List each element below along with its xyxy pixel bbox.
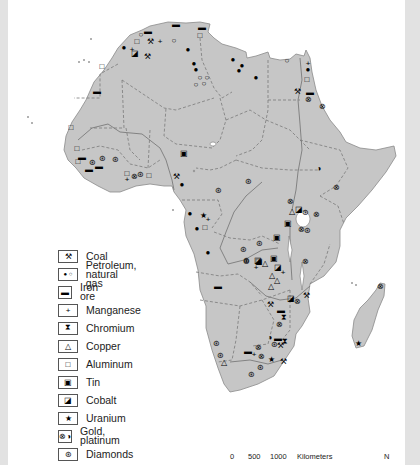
manganese-icon: + bbox=[281, 269, 286, 277]
tin-icon: ▣ bbox=[284, 220, 292, 228]
island bbox=[88, 61, 90, 63]
diamonds-icon: ⊛ bbox=[245, 178, 252, 186]
diamonds-icon: ⊛ bbox=[302, 209, 309, 217]
scale-unit-label: Kilometers bbox=[297, 452, 332, 461]
natural-gas-icon: ○ bbox=[202, 80, 207, 88]
africa-landmass bbox=[64, 22, 396, 392]
legend-label: Copper bbox=[86, 342, 120, 351]
gold-icon: ⊗ bbox=[287, 198, 294, 206]
gold-icon: ⊗ bbox=[255, 344, 262, 352]
petroleum-icon: ● bbox=[122, 44, 127, 52]
petroleum-icon: ● bbox=[188, 210, 193, 218]
gold-icon: ⊗ bbox=[377, 283, 384, 291]
aluminum-icon: □ bbox=[69, 124, 74, 132]
coal-icon: ⚒ bbox=[303, 292, 310, 300]
diamonds-icon: ⊛ bbox=[304, 227, 311, 235]
diamonds-icon: ⊛ bbox=[240, 246, 247, 254]
chromium-icon: ⧗ bbox=[58, 322, 78, 335]
legend-label: Chromium bbox=[86, 324, 134, 333]
legend-item-chromium: ⧗ Chromium bbox=[58, 321, 134, 335]
legend-item-gold-platinum: ⊗◑ Gold, platinum bbox=[58, 429, 126, 443]
petroleum-icon: ● bbox=[237, 67, 242, 75]
platinum-icon: ◑ bbox=[317, 165, 322, 173]
legend-label: Uranium bbox=[86, 414, 126, 423]
diamonds-icon: ⊛ bbox=[256, 240, 263, 248]
petroleum-icon: ● bbox=[195, 225, 200, 233]
legend-label: Diamonds bbox=[86, 450, 133, 459]
diamonds-icon: ⊛ bbox=[112, 156, 119, 164]
aluminum-icon: □ bbox=[135, 38, 140, 46]
iron-ore-icon: ▬ bbox=[172, 21, 180, 29]
aluminum-icon: □ bbox=[58, 358, 78, 371]
north-indicator: N bbox=[384, 452, 389, 461]
coal-icon: ⚒ bbox=[173, 173, 180, 181]
coal-icon: ⚒ bbox=[277, 342, 284, 350]
aluminum-icon: □ bbox=[75, 145, 80, 153]
uranium-icon: ★ bbox=[268, 356, 275, 364]
legend-label: Iron ore bbox=[80, 283, 104, 301]
coal-icon: ⚒ bbox=[280, 358, 287, 366]
petroleum-icon: ● bbox=[180, 181, 185, 189]
legend-item-cobalt: ◪ Cobalt bbox=[58, 393, 116, 407]
gold-icon: ⊗ bbox=[294, 298, 301, 306]
iron-ore-icon: ▬ bbox=[214, 283, 222, 291]
copper-icon: △ bbox=[221, 359, 227, 367]
island bbox=[27, 116, 29, 118]
diamonds-icon: ⊛ bbox=[243, 258, 250, 266]
tin-icon: ▣ bbox=[58, 376, 78, 389]
legend-item-copper: △ Copper bbox=[58, 339, 120, 353]
scale-tick-500: 500 bbox=[248, 452, 261, 461]
legend-label: Aluminum bbox=[86, 360, 133, 369]
natural-gas-icon: ○ bbox=[172, 37, 177, 45]
copper-icon: △ bbox=[268, 283, 274, 291]
petroleum-gas-icon: ● ○ bbox=[58, 268, 78, 281]
island bbox=[355, 284, 357, 286]
legend-label: Gold, platinum bbox=[80, 427, 126, 445]
diamonds-icon: ⊛ bbox=[137, 171, 144, 179]
natural-gas-icon: ○ bbox=[194, 81, 199, 89]
tin-icon: ▣ bbox=[273, 234, 281, 242]
diamonds-icon: ⊛ bbox=[213, 340, 220, 348]
manganese-icon: + bbox=[58, 304, 78, 317]
gold-icon: ⊗ bbox=[319, 103, 326, 111]
lake-chad bbox=[210, 142, 216, 146]
tin-icon: ▣ bbox=[270, 255, 278, 263]
diamonds-icon: ⊛ bbox=[99, 155, 106, 163]
copper-icon: △ bbox=[274, 277, 280, 285]
island bbox=[83, 59, 85, 61]
aluminum-icon: □ bbox=[305, 76, 310, 84]
legend-item-manganese: + Manganese bbox=[58, 303, 141, 317]
gold-icon: ⊗ bbox=[313, 211, 320, 219]
iron-ore-icon: ▬ bbox=[85, 166, 93, 174]
iron-ore-icon: ▬ bbox=[144, 28, 152, 36]
island bbox=[78, 61, 80, 63]
aluminum-icon: □ bbox=[198, 32, 203, 40]
scale-tick-0: 0 bbox=[230, 452, 234, 461]
manganese-icon: + bbox=[125, 176, 130, 184]
island bbox=[193, 170, 195, 172]
legend-item-petroleum: ● ○ Petroleum, natural gas bbox=[58, 267, 137, 281]
legend-label: Cobalt bbox=[86, 396, 116, 405]
cobalt-icon: ◪ bbox=[131, 50, 139, 58]
legend-label: Manganese bbox=[86, 306, 141, 315]
coal-icon: ⚒ bbox=[267, 301, 274, 309]
legend-item-diamonds: ⊛ Diamonds bbox=[58, 447, 133, 461]
island bbox=[351, 282, 353, 284]
gold-icon: ⊗ bbox=[302, 258, 309, 266]
manganese-icon: + bbox=[158, 38, 163, 46]
legend-item-uranium: ★ Uranium bbox=[58, 411, 126, 425]
diamonds-icon: ⊛ bbox=[257, 364, 264, 372]
island bbox=[90, 38, 92, 40]
diamonds-icon: ⊛ bbox=[215, 187, 222, 195]
petroleum-icon: ● bbox=[206, 249, 211, 257]
coal-icon: ⚒ bbox=[294, 88, 301, 96]
aluminum-icon: □ bbox=[100, 63, 105, 71]
petroleum-icon: ● bbox=[254, 74, 259, 82]
island bbox=[172, 209, 174, 211]
island bbox=[31, 122, 33, 124]
petroleum-icon: ● bbox=[186, 46, 191, 54]
gold-icon: ⊗ bbox=[333, 184, 340, 192]
diamonds-icon: ⊛ bbox=[58, 448, 78, 461]
coal-icon: ⚒ bbox=[144, 53, 151, 61]
gold-icon: ⊗ bbox=[305, 96, 312, 104]
